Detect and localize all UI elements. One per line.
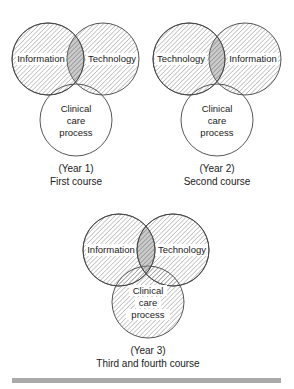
venn-diagram: Information Technology Clinical care pro… (0, 0, 294, 389)
label-care: care (139, 297, 157, 308)
label-care: care (67, 115, 85, 126)
label-information: Information (87, 244, 135, 255)
caption-course: Third and fourth course (96, 358, 200, 369)
bottom-rule (12, 378, 281, 383)
panel-year3: Information Technology Clinical care pro… (83, 214, 209, 369)
caption-year: (Year 3) (130, 345, 165, 356)
label-information: Information (229, 53, 277, 64)
label-process: process (59, 127, 93, 138)
label-information: Information (17, 53, 65, 64)
caption-year: (Year 2) (199, 163, 234, 174)
caption-course: First course (50, 176, 103, 187)
label-clinical: Clinical (61, 103, 92, 114)
label-technology: Technology (88, 53, 136, 64)
label-technology: Technology (157, 53, 205, 64)
label-process: process (200, 127, 234, 138)
panel-year1: Information Technology Clinical care pro… (12, 23, 139, 187)
label-clinical: Clinical (202, 103, 233, 114)
label-technology: Technology (158, 244, 206, 255)
panel-year2: Technology Information Clinical care pro… (153, 23, 281, 187)
caption-course: Second course (184, 176, 251, 187)
label-clinical: Clinical (133, 285, 164, 296)
label-process: process (131, 309, 165, 320)
label-care: care (208, 115, 226, 126)
caption-year: (Year 1) (58, 163, 93, 174)
